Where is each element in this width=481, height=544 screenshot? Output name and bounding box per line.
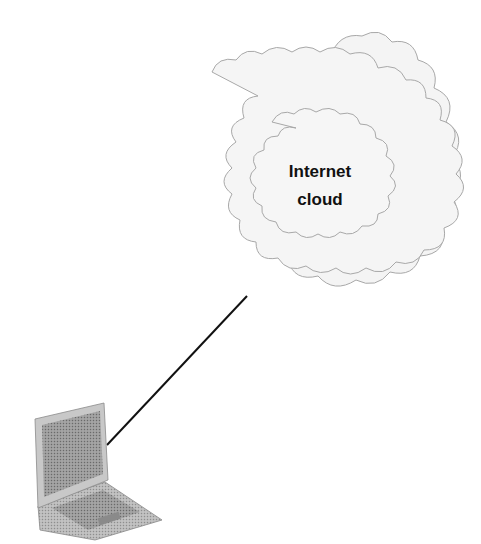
connection-line	[107, 296, 247, 445]
laptop-icon	[35, 403, 162, 540]
cloud-label-line1: Internet	[250, 160, 390, 184]
cloud-label-line2: cloud	[250, 188, 390, 212]
network-diagram	[0, 0, 481, 544]
